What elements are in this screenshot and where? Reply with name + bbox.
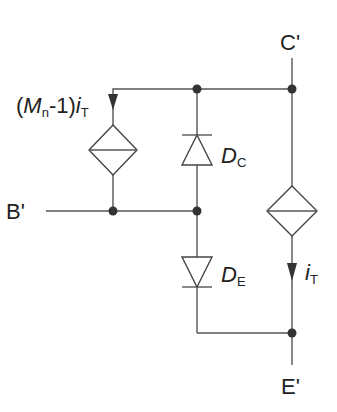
diode-de	[182, 257, 212, 287]
node-base-middle	[193, 207, 202, 216]
left-controlled-current-source	[89, 125, 137, 175]
left-current-arrow-icon	[108, 94, 118, 110]
right-controlled-current-source	[267, 186, 317, 236]
diode-dc-label: DC	[221, 143, 246, 170]
circuit-diagram: C' B' E' (Mn-1)iT DC DE iT	[0, 0, 337, 412]
right-current-label: iT	[305, 260, 318, 287]
node-top-middle	[193, 85, 202, 94]
right-current-arrow-icon	[287, 263, 297, 281]
diode-dc	[182, 135, 212, 165]
node-emitter	[288, 329, 297, 338]
top-wire	[113, 89, 292, 108]
left-source-label: (Mn-1)iT	[16, 93, 89, 120]
diode-de-label: DE	[221, 262, 246, 289]
node-collector	[288, 85, 297, 94]
terminal-e-label: E'	[281, 374, 300, 399]
terminal-c-label: C'	[280, 30, 300, 55]
node-base-left	[109, 207, 118, 216]
terminal-b-label: B'	[6, 199, 25, 224]
